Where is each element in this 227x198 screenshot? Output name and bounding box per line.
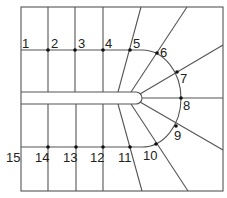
walking-point-13 bbox=[74, 145, 78, 149]
walking-point-3 bbox=[73, 48, 77, 52]
walking-point-12 bbox=[101, 145, 105, 149]
walking-point-11 bbox=[128, 145, 132, 149]
walking-point-10 bbox=[154, 142, 158, 146]
central-handrail bbox=[21, 92, 142, 104]
riser-7 bbox=[140, 45, 223, 94]
step-label-3: 3 bbox=[78, 36, 85, 51]
walking-point-7 bbox=[175, 70, 179, 74]
step-label-7: 7 bbox=[180, 71, 187, 86]
step-label-15: 15 bbox=[6, 150, 20, 165]
step-labels: 123456789101112131415 bbox=[6, 36, 190, 165]
walking-point-6 bbox=[155, 51, 159, 55]
step-label-6: 6 bbox=[160, 45, 167, 60]
walking-point-14 bbox=[46, 145, 50, 149]
step-label-4: 4 bbox=[105, 36, 112, 51]
step-label-10: 10 bbox=[143, 148, 157, 163]
walking-point-5 bbox=[128, 48, 132, 52]
staircase-diagram: 123456789101112131415 bbox=[0, 0, 227, 198]
step-label-14: 14 bbox=[35, 150, 49, 165]
step-label-13: 13 bbox=[63, 150, 77, 165]
step-label-1: 1 bbox=[22, 36, 29, 51]
step-label-5: 5 bbox=[133, 36, 140, 51]
step-label-12: 12 bbox=[90, 150, 104, 165]
step-label-11: 11 bbox=[118, 150, 132, 165]
step-label-9: 9 bbox=[174, 128, 181, 143]
step-label-2: 2 bbox=[51, 36, 58, 51]
step-label-8: 8 bbox=[183, 98, 190, 113]
walking-point-2 bbox=[46, 48, 50, 52]
riser-9 bbox=[140, 102, 223, 150]
